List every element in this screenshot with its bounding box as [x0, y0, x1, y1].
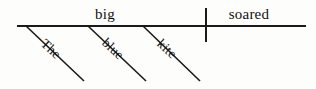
word-label-subject: big	[95, 6, 115, 22]
word-label-verb: soared	[229, 6, 270, 22]
diagram-canvas: big soared The blue kite	[0, 0, 316, 89]
sentence-diagram: big soared The blue kite	[0, 0, 316, 89]
